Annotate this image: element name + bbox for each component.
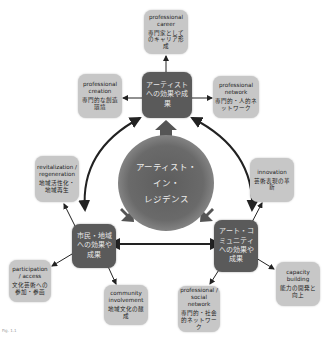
outcome-jp: 専門的な創造環境 bbox=[80, 97, 120, 111]
outcome-en: community involvement bbox=[106, 290, 146, 304]
outcome-jp: 文化芸術への参加・参画 bbox=[11, 282, 49, 296]
outcome-en: professional network bbox=[215, 82, 257, 96]
center-label-line: レジデンス bbox=[136, 191, 197, 207]
artist-in-residence-center: アーティスト・ イン・ レジデンス bbox=[118, 135, 214, 231]
outcome-revitalization: revitalization / regeneration 地域活性化・地域再生 bbox=[35, 156, 79, 202]
outcome-professional-network: professional network 専門的・人的ネットワーク bbox=[213, 76, 259, 118]
outcome-jp: 能力の開発と向上 bbox=[278, 285, 318, 299]
outcome-en: professional creation bbox=[80, 81, 120, 95]
hub-label: アート・コミュニティへの効果や成果 bbox=[217, 227, 255, 265]
center-label-line: イン・ bbox=[136, 175, 197, 191]
outcome-professional-creation: professional creation 専門的な創造環境 bbox=[78, 74, 122, 118]
outcome-jp: 専門家としてのキャリア形成 bbox=[146, 30, 186, 51]
hub-art-community-effects: アート・コミュニティへの効果や成果 bbox=[214, 220, 258, 272]
outcome-community-involvement: community involvement 地域文化の醸成 bbox=[104, 285, 148, 325]
outcome-en: professional / social network bbox=[180, 287, 218, 308]
outcome-en: capacity building bbox=[278, 269, 318, 283]
outcome-jp: 地域文化の醸成 bbox=[106, 306, 146, 320]
hub-label: アーティストへの効果や成果 bbox=[145, 81, 189, 109]
figure-caption: Fig. 1.1 bbox=[2, 328, 17, 333]
hub-citizen-effects: 市民・地域への効果や成果 bbox=[72, 224, 116, 268]
outcome-en: professional career bbox=[146, 14, 186, 28]
hub-artist-effects: アーティストへの効果や成果 bbox=[142, 72, 192, 118]
center-label-line: アーティスト・ bbox=[136, 159, 197, 175]
outcome-jp: 専門的・人的ネットワーク bbox=[215, 98, 257, 112]
outcome-en: innovation bbox=[257, 169, 287, 176]
outcome-en: revitalization / regeneration bbox=[37, 164, 77, 178]
outcome-participation: participation / access 文化芸術への参加・参画 bbox=[9, 260, 51, 302]
hub-label: 市民・地域への効果や成果 bbox=[75, 232, 113, 260]
outcome-en: participation / access bbox=[11, 266, 49, 280]
outcome-jp: 芸術表現の革新 bbox=[252, 178, 292, 192]
outcome-jp: 地域活性化・地域再生 bbox=[37, 180, 77, 194]
outcome-innovation: innovation 芸術表現の革新 bbox=[250, 158, 294, 202]
outcome-capacity-building: capacity building 能力の開発と向上 bbox=[276, 262, 320, 306]
outcome-professional-career: professional career 専門家としてのキャリア形成 bbox=[144, 10, 188, 54]
outcome-jp: 専門的・社会的ネットワーク bbox=[180, 310, 218, 331]
outcome-professional-social-network: professional / social network 専門的・社会的ネット… bbox=[178, 286, 220, 332]
